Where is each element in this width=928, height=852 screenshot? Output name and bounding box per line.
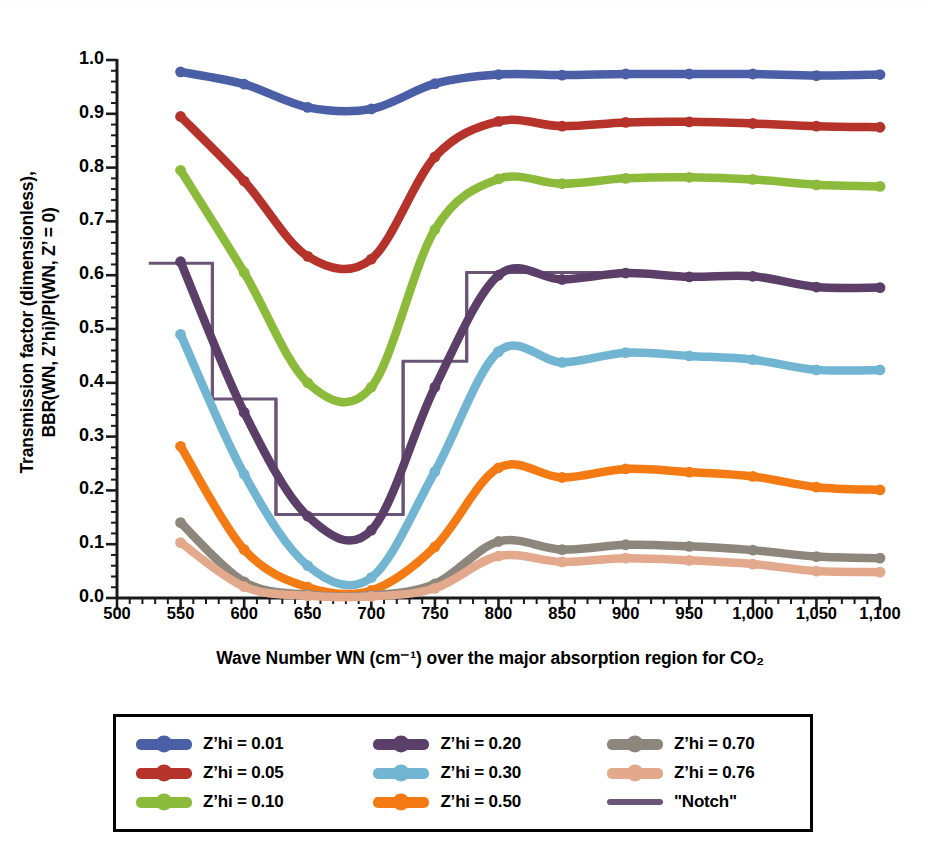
- data-point: [493, 173, 504, 184]
- y-tick-label: 0.2: [48, 478, 104, 499]
- data-point: [430, 382, 441, 393]
- data-point: [875, 282, 886, 293]
- y-tick-label: 1.0: [48, 48, 104, 69]
- data-point: [811, 482, 822, 493]
- data-series: [175, 165, 885, 402]
- data-point: [684, 351, 695, 362]
- data-point: [875, 553, 886, 564]
- data-point: [557, 472, 568, 483]
- data-point: [684, 172, 695, 183]
- legend-item[interactable]: Z’hi = 0.20: [373, 733, 607, 755]
- legend-swatch-icon: [136, 768, 192, 779]
- data-point: [684, 541, 695, 552]
- x-tick-label: 950: [654, 604, 724, 623]
- data-point: [239, 407, 250, 418]
- y-tick-label: 0.3: [48, 425, 104, 446]
- data-point: [493, 346, 504, 357]
- legend-item[interactable]: Z’hi = 0.70: [607, 733, 800, 755]
- data-point: [684, 555, 695, 566]
- data-point: [875, 364, 886, 375]
- x-tick-label: 850: [527, 604, 597, 623]
- data-point: [747, 174, 758, 185]
- x-tick-label: 600: [209, 604, 279, 623]
- data-point: [875, 484, 886, 495]
- data-point: [302, 560, 313, 571]
- data-point: [430, 579, 441, 590]
- legend-item[interactable]: "Notch": [607, 791, 800, 813]
- legend: Z’hi = 0.01Z’hi = 0.05Z’hi = 0.10Z’hi = …: [113, 714, 813, 832]
- data-point: [366, 585, 377, 596]
- data-point: [684, 271, 695, 282]
- data-point: [747, 559, 758, 570]
- legend-column: Z’hi = 0.20Z’hi = 0.30Z’hi = 0.50: [373, 733, 607, 819]
- data-point: [620, 69, 631, 80]
- data-point: [430, 151, 441, 162]
- data-point: [620, 347, 631, 358]
- data-point: [493, 116, 504, 127]
- legend-marker-icon: [156, 794, 173, 811]
- y-tick-label: 0.9: [48, 102, 104, 123]
- data-point: [557, 274, 568, 285]
- y-tick-label: 0.4: [48, 371, 104, 392]
- x-tick-label: 700: [336, 604, 406, 623]
- data-point: [620, 173, 631, 184]
- legend-swatch-icon: [607, 739, 663, 750]
- legend-item[interactable]: Z’hi = 0.50: [373, 791, 607, 813]
- data-point: [620, 553, 631, 564]
- legend-swatch-icon: [136, 797, 192, 808]
- legend-marker-icon: [156, 765, 173, 782]
- data-point: [239, 176, 250, 187]
- data-point: [175, 537, 186, 548]
- legend-item[interactable]: Z’hi = 0.05: [136, 762, 373, 784]
- y-axis-tick-labels: 0.00.10.20.30.40.50.60.70.80.91.0: [48, 0, 104, 620]
- legend-item-label: Z’hi = 0.01: [203, 734, 283, 754]
- legend-swatch-icon: [136, 739, 192, 750]
- data-point: [175, 517, 186, 528]
- legend-item-label: "Notch": [674, 792, 737, 812]
- data-point: [747, 545, 758, 556]
- data-point: [747, 354, 758, 365]
- legend-item[interactable]: Z’hi = 0.76: [607, 762, 800, 784]
- data-point: [875, 122, 886, 133]
- data-point: [366, 382, 377, 393]
- x-tick-label: 1,000: [718, 604, 788, 623]
- data-point: [430, 78, 441, 89]
- data-point: [366, 104, 377, 115]
- data-point: [366, 525, 377, 536]
- legend-item[interactable]: Z’hi = 0.10: [136, 791, 373, 813]
- data-point: [684, 69, 695, 80]
- data-point: [875, 181, 886, 192]
- legend-column: Z’hi = 0.01Z’hi = 0.05Z’hi = 0.10: [136, 733, 373, 819]
- legend-item[interactable]: Z’hi = 0.30: [373, 762, 607, 784]
- data-point: [875, 567, 886, 578]
- legend-item-label: Z’hi = 0.76: [674, 763, 754, 783]
- legend-swatch-icon: [607, 768, 663, 779]
- legend-item[interactable]: Z’hi = 0.01: [136, 733, 373, 755]
- data-point: [493, 462, 504, 473]
- data-point: [493, 536, 504, 547]
- x-tick-label: 1,050: [781, 604, 851, 623]
- data-point: [620, 117, 631, 128]
- data-point: [811, 121, 822, 132]
- legend-item-label: Z’hi = 0.70: [674, 734, 754, 754]
- data-series: [175, 256, 885, 540]
- data-point: [557, 357, 568, 368]
- data-point: [684, 116, 695, 127]
- y-axis-ticks: [106, 60, 117, 598]
- data-series: [175, 537, 885, 602]
- data-point: [811, 282, 822, 293]
- data-point: [620, 539, 631, 550]
- x-tick-label: 650: [273, 604, 343, 623]
- data-point: [175, 329, 186, 340]
- data-point: [811, 364, 822, 375]
- x-tick-label: 750: [400, 604, 470, 623]
- data-point: [430, 466, 441, 477]
- y-tick-label: 0.7: [48, 209, 104, 230]
- x-tick-label: 550: [146, 604, 216, 623]
- data-point: [557, 121, 568, 132]
- data-point: [430, 583, 441, 594]
- data-point: [557, 70, 568, 81]
- legend-swatch-icon: [607, 799, 663, 805]
- data-point: [302, 590, 313, 601]
- data-point: [493, 69, 504, 80]
